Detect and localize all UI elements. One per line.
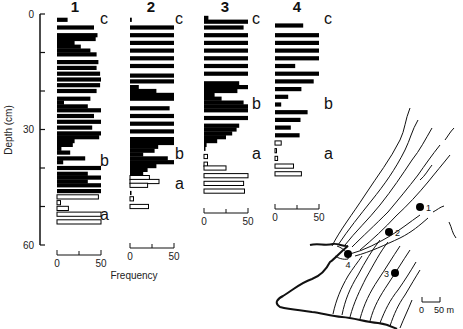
- histogram-bar: [57, 206, 68, 210]
- histogram-bar: [130, 191, 132, 195]
- histogram-bar: [130, 152, 143, 156]
- histogram-bar: [130, 129, 174, 133]
- histogram-bar: [57, 151, 70, 155]
- histogram-bar: [204, 147, 206, 151]
- histogram-bar: [57, 179, 88, 183]
- histogram-bar: [57, 52, 97, 56]
- histogram-bar: [57, 114, 94, 118]
- core-4: 4cba050: [272, 0, 333, 223]
- histogram-bar: [204, 93, 215, 97]
- histogram-bar: [57, 143, 73, 147]
- unit-label-c: c: [252, 10, 260, 27]
- unit-label-a: a: [100, 206, 109, 223]
- histogram-bar: [130, 89, 156, 93]
- histogram-bar: [130, 97, 174, 101]
- histogram-bar: [275, 79, 314, 83]
- site-4: 4: [344, 250, 352, 270]
- core-2: 2cba050: [127, 0, 184, 262]
- histogram-bar: [57, 60, 98, 64]
- histogram-bar: [204, 81, 239, 85]
- histogram-bar: [204, 56, 248, 60]
- histogram-bar: [204, 25, 244, 29]
- histogram-bar: [130, 168, 148, 172]
- y-tick-30: 30: [23, 124, 35, 135]
- histogram-bar: [57, 41, 75, 45]
- x-tick-0: 0: [127, 251, 133, 262]
- site-label: 4: [345, 260, 350, 270]
- histogram-bar: [204, 143, 207, 147]
- histogram-bar: [204, 174, 248, 178]
- histogram-bar: [275, 118, 301, 122]
- histogram-bar: [275, 33, 319, 37]
- histogram-bar: [57, 166, 101, 170]
- site-marker: [344, 250, 352, 258]
- histogram-bar: [204, 108, 248, 112]
- histogram-bar: [275, 110, 308, 114]
- histogram-bar: [275, 64, 295, 68]
- core-title: 1: [71, 0, 79, 15]
- histogram-bar: [204, 154, 208, 158]
- histogram-bar: [275, 172, 301, 176]
- site-label: 3: [384, 269, 389, 279]
- unit-label-b: b: [252, 95, 261, 112]
- x-tick-50: 50: [95, 258, 107, 269]
- frequency-axis: [130, 243, 174, 248]
- site-1: 1: [416, 203, 431, 213]
- histogram-bar: [130, 49, 174, 53]
- histogram-bar: [130, 204, 149, 208]
- histogram-bar: [57, 49, 90, 53]
- histogram-bar: [275, 102, 281, 106]
- unit-label-a: a: [324, 145, 333, 162]
- histogram-bar: [204, 166, 226, 170]
- histogram-bar: [275, 126, 291, 130]
- histogram-bar: [204, 116, 248, 120]
- histogram-bar: [204, 127, 237, 131]
- histogram-bar: [57, 72, 100, 76]
- y-axis-title: Depth (cm): [3, 105, 14, 154]
- histogram-bar: [275, 95, 288, 99]
- histogram-bar: [204, 131, 232, 135]
- histogram-bar: [130, 41, 174, 45]
- map-scale-bar: 0 50 m: [419, 297, 454, 315]
- unit-label-a: a: [175, 175, 184, 192]
- histogram-bar: [204, 124, 239, 128]
- histogram-bar: [204, 72, 248, 76]
- histogram-bar: [275, 23, 303, 27]
- histogram-bar: [275, 56, 319, 60]
- histogram-bar: [57, 183, 101, 187]
- histogram-bar: [130, 25, 174, 29]
- histogram-bar: [204, 139, 217, 143]
- unit-label-c: c: [100, 10, 108, 27]
- histogram-bar: [57, 101, 64, 105]
- figure: 0 30 60 Depth (cm) 1cba0502cba0503cba050…: [0, 0, 463, 329]
- histogram-bar: [57, 77, 101, 81]
- histogram-bar: [57, 201, 61, 205]
- histogram-bar: [204, 101, 244, 105]
- unit-label-b: b: [324, 95, 333, 112]
- map-sites: 1234: [344, 203, 431, 279]
- histogram-bar: [57, 160, 63, 164]
- histogram-bar: [130, 160, 174, 164]
- histogram-bar: [275, 87, 301, 91]
- histogram-bar: [130, 114, 174, 118]
- site-marker: [391, 269, 399, 277]
- core-title: 3: [221, 0, 229, 15]
- histogram-bar: [57, 212, 101, 216]
- histogram-bar: [130, 74, 174, 78]
- histogram-bar: [275, 149, 277, 153]
- site-map: [277, 108, 456, 329]
- histogram-bar: [204, 181, 244, 185]
- histogram-bar: [275, 156, 278, 160]
- site-label: 2: [395, 228, 400, 238]
- histogram-bar: [57, 108, 101, 112]
- histogram-bar: [204, 189, 245, 193]
- histogram-bar: [204, 49, 248, 53]
- unit-label-b: b: [175, 145, 184, 162]
- x-tick-0: 0: [54, 258, 60, 269]
- x-tick-0: 0: [272, 212, 278, 223]
- histogram-bar: [57, 135, 99, 139]
- histogram-bar: [275, 41, 319, 45]
- site-marker: [385, 228, 393, 236]
- histogram-bar: [130, 79, 174, 83]
- core-title: 2: [147, 0, 155, 15]
